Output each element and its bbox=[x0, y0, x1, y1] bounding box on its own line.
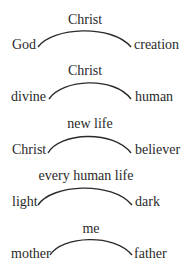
relation-row-1: Christ God creation bbox=[0, 0, 192, 55]
left-term: God bbox=[12, 38, 36, 52]
relation-row-4: every human life light dark bbox=[0, 165, 192, 220]
mediator-label: every human life bbox=[39, 169, 134, 183]
right-term: creation bbox=[134, 38, 179, 52]
relation-row-2: Christ divine human bbox=[0, 55, 192, 110]
mediator-label: Christ bbox=[68, 13, 102, 27]
right-term: believer bbox=[135, 143, 180, 157]
right-term: human bbox=[135, 90, 173, 104]
left-term: light bbox=[12, 195, 38, 209]
relation-row-5: me mother father bbox=[0, 220, 192, 275]
mediator-label: new life bbox=[67, 117, 112, 131]
left-term: mother bbox=[11, 247, 51, 261]
mediator-label: me bbox=[82, 222, 99, 236]
left-term: Christ bbox=[12, 143, 46, 157]
mediator-label: Christ bbox=[68, 64, 102, 78]
right-term: dark bbox=[135, 195, 160, 209]
left-term: divine bbox=[11, 90, 46, 104]
right-term: father bbox=[134, 247, 167, 261]
relation-row-3: new life Christ believer bbox=[0, 110, 192, 165]
